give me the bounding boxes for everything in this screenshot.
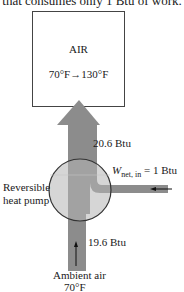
work-subscript: net, in	[121, 170, 141, 179]
source-label-line2: 70°F	[64, 281, 86, 292]
device-label-line2: heat pump	[3, 194, 49, 206]
source-label-line1: Ambient air	[53, 269, 106, 281]
work-symbol: W	[112, 164, 121, 176]
work-in-label: Wnet, in = 1 Btu	[112, 164, 177, 179]
work-value: = 1 Btu	[144, 164, 177, 176]
heat-in-label: 19.6 Btu	[88, 236, 126, 248]
heat-pump-flow-diagram	[0, 0, 184, 292]
heat-out-label: 20.6 Btu	[93, 137, 131, 149]
heat-out-arrowhead-icon	[57, 100, 100, 125]
device-label-line1: Reversible	[3, 181, 50, 193]
heat-pump-circle-icon	[49, 159, 111, 221]
